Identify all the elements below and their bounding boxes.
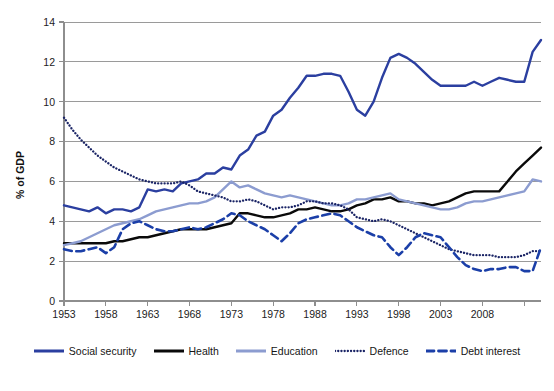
legend-item-defence[interactable]: Defence xyxy=(335,345,409,357)
x-tick-label: 1993 xyxy=(345,308,369,320)
line-chart-plot: 0246810121419531958196319681973197819881… xyxy=(0,0,554,391)
series-line-defence xyxy=(64,118,541,258)
series-line-social-security xyxy=(64,40,541,213)
legend-label: Education xyxy=(271,345,318,357)
y-tick-label: 12 xyxy=(43,56,55,68)
y-tick-label: 8 xyxy=(49,135,55,147)
legend-item-education[interactable]: Education xyxy=(236,345,318,357)
legend-item-social-security[interactable]: Social security xyxy=(34,345,137,357)
legend-swatch-dotted xyxy=(335,346,365,356)
legend-swatch-dashed xyxy=(426,346,456,356)
legend-swatch-solid xyxy=(236,346,266,356)
x-tick-label: 1953 xyxy=(52,308,76,320)
chart-container: 0246810121419531958196319681973197819881… xyxy=(0,0,554,391)
series-line-education xyxy=(64,179,541,245)
legend-item-health[interactable]: Health xyxy=(154,345,219,357)
x-tick-label: 1998 xyxy=(387,308,411,320)
chart-legend: Social securityHealthEducationDefenceDeb… xyxy=(0,338,554,364)
y-tick-label: 10 xyxy=(43,96,55,108)
legend-swatch-solid xyxy=(34,346,64,356)
x-tick-label: 1963 xyxy=(136,308,160,320)
y-tick-label: 4 xyxy=(49,215,55,227)
y-tick-label: 14 xyxy=(43,16,55,28)
series-line-health xyxy=(64,148,541,244)
x-tick-label: 2008 xyxy=(471,308,495,320)
legend-label: Defence xyxy=(370,345,409,357)
x-tick-label: 1958 xyxy=(94,308,118,320)
legend-item-debt-interest[interactable]: Debt interest xyxy=(426,345,521,357)
y-tick-label: 0 xyxy=(49,295,55,307)
y-tick-label: 6 xyxy=(49,175,55,187)
y-axis-title: % of GDP xyxy=(14,151,26,199)
x-tick-label: 2003 xyxy=(429,308,453,320)
legend-swatch-solid xyxy=(154,346,184,356)
legend-label: Debt interest xyxy=(461,345,521,357)
legend-label: Social security xyxy=(69,345,137,357)
y-tick-label: 2 xyxy=(49,255,55,267)
x-tick-label: 1988 xyxy=(303,308,327,320)
x-tick-label: 1973 xyxy=(220,308,244,320)
x-tick-label: 1968 xyxy=(178,308,202,320)
series-line-debt-interest xyxy=(64,213,541,271)
legend-label: Health xyxy=(189,345,219,357)
x-tick-label: 1978 xyxy=(262,308,286,320)
